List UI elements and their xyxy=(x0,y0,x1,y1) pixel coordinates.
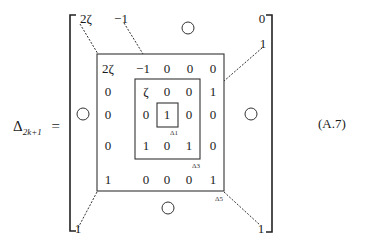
cell-4-1: 0 xyxy=(143,173,150,186)
zero-block-right-icon xyxy=(245,108,258,121)
equation-number: (A.7) xyxy=(318,117,346,130)
cell-0-2: 0 xyxy=(164,62,171,75)
delta-symbol: Δ xyxy=(13,118,23,134)
cell-3-0: 0 xyxy=(105,139,112,152)
zero-block-top-icon xyxy=(182,22,195,35)
cell-1-1: ζ xyxy=(143,85,148,98)
cell-2-4: 0 xyxy=(210,108,217,121)
equals-sign: = xyxy=(51,118,59,134)
cell-3-3: 1 xyxy=(186,139,193,152)
delta1-label: Δ1 xyxy=(170,130,178,137)
connector-right-1 xyxy=(224,48,262,81)
cell-1-3: 0 xyxy=(186,85,193,98)
cell-2-2: 1 xyxy=(164,108,171,121)
outer-top-left: 2ζ xyxy=(80,12,92,25)
outer-bottom-right: 1 xyxy=(258,222,265,235)
cell-4-0: 1 xyxy=(105,173,112,186)
cell-4-4: 1 xyxy=(210,173,217,186)
cell-3-4: 0 xyxy=(210,139,217,152)
cell-3-2: 0 xyxy=(164,139,171,152)
connector-2zeta xyxy=(80,24,98,54)
cell-0-3: 0 xyxy=(187,62,194,75)
delta3-label: Δ3 xyxy=(192,163,200,170)
lhs-subscript: 2k+1 xyxy=(23,127,42,137)
outer-top-right: 0 xyxy=(259,12,266,25)
cell-0-1: −1 xyxy=(136,62,150,75)
cell-2-0: 0 xyxy=(105,108,112,121)
outer-bottom-left: 1 xyxy=(75,222,82,235)
delta5-label: Δ5 xyxy=(215,196,223,203)
cell-1-2: 0 xyxy=(164,85,171,98)
connector-bottom-right-1 xyxy=(224,192,260,225)
cell-1-0: 0 xyxy=(105,85,112,98)
cell-2-1: 0 xyxy=(143,108,150,121)
cell-4-2: 0 xyxy=(164,173,171,186)
delta5-box xyxy=(97,54,224,191)
zero-block-left-icon xyxy=(77,108,90,121)
left-bracket xyxy=(70,15,76,231)
connector-minus1 xyxy=(124,23,143,54)
cell-4-3: 0 xyxy=(186,173,193,186)
cell-1-4: 1 xyxy=(210,85,217,98)
outer-top-second: −1 xyxy=(114,12,128,25)
right-bracket xyxy=(266,15,272,232)
cell-2-3: 0 xyxy=(186,108,193,121)
lhs-delta: Δ2k+1 = xyxy=(13,119,60,137)
zero-block-bottom-icon xyxy=(162,202,175,215)
cell-0-0: 2ζ xyxy=(102,62,114,75)
outer-right-second: 1 xyxy=(260,37,267,50)
cell-3-1: 1 xyxy=(143,139,150,152)
cell-0-4: 0 xyxy=(210,62,217,75)
